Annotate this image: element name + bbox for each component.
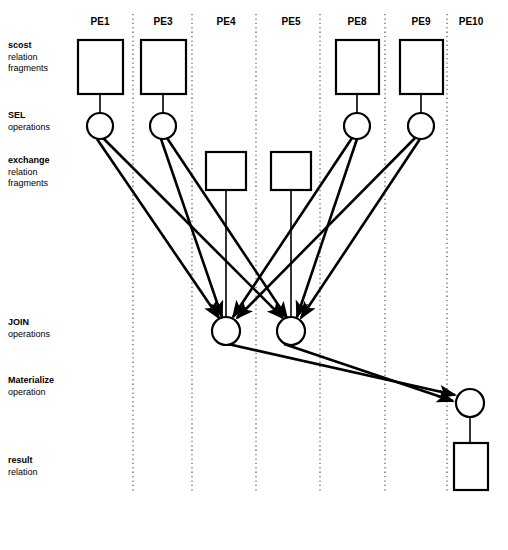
box-scost-PE8	[336, 40, 379, 94]
arrow-sel-PE1-to-join-PE4	[97, 139, 219, 318]
arrow-join-PE5-to-materialize-PE10	[284, 344, 453, 401]
circle-sel-PE1	[87, 113, 113, 139]
diagram-canvas: PE1PE3PE4PE5PE8PE9PE10 scostrelationfrag…	[0, 0, 508, 550]
box-scost-PE3	[141, 40, 186, 94]
box-exchange-PE4	[206, 152, 246, 190]
circle-join-PE4	[212, 317, 240, 345]
box-scost-PE1	[78, 40, 123, 94]
relation-fragment-boxes	[78, 40, 488, 490]
circle-sel-PE9	[408, 113, 434, 139]
circle-join-PE5	[277, 317, 305, 345]
arrow-join-PE4-to-materialize-PE10	[219, 342, 455, 395]
box-exchange-PE5	[271, 152, 311, 190]
query-plan-diagram	[0, 0, 508, 550]
circle-sel-PE3	[150, 113, 176, 139]
box-scost-PE9	[400, 40, 443, 94]
circle-sel-PE8	[344, 113, 370, 139]
arrow-sel-PE9-to-join-PE5	[301, 139, 420, 318]
box-result-PE10	[454, 443, 488, 490]
arrow-sel-PE9-to-join-PE4	[237, 138, 415, 318]
circle-materialize-PE10	[456, 389, 484, 417]
arrow-sel-PE1-to-join-PE5	[103, 138, 283, 318]
